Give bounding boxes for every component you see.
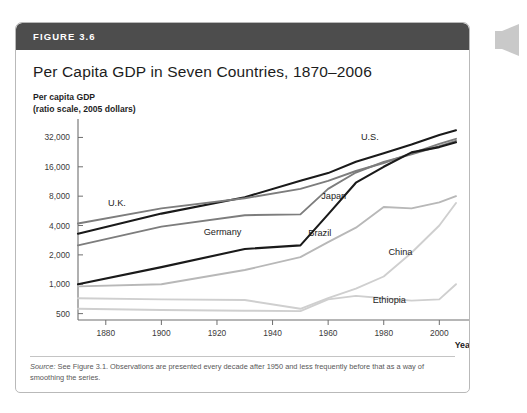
source-divider: [30, 356, 455, 357]
svg-text:2000: 2000: [430, 328, 449, 338]
y-axis-caption: Per capita GDP (ratio scale, 2005 dollar…: [16, 81, 469, 115]
svg-text:4,000: 4,000: [49, 221, 70, 231]
source-note: Source: See Figure 3.1. Observations are…: [30, 362, 454, 383]
y-axis-caption-line1: Per capita GDP: [33, 92, 469, 104]
svg-text:8,000: 8,000: [49, 191, 70, 201]
svg-text:1,000: 1,000: [49, 279, 70, 289]
x-axis-title: Year: [455, 340, 470, 350]
svg-text:China: China: [388, 247, 413, 257]
figure-title: Per Capita GDP in Seven Countries, 1870–…: [16, 50, 469, 81]
svg-text:Brazil: Brazil: [308, 228, 331, 238]
figure-number-label: FIGURE 3.6: [33, 31, 96, 42]
plot-area: 5001,0002,0004,0008,00016,00032,000 1880…: [16, 115, 470, 360]
svg-text:16,000: 16,000: [44, 162, 70, 172]
svg-text:1900: 1900: [152, 328, 171, 338]
svg-text:Germany: Germany: [204, 227, 242, 237]
svg-text:U.K.: U.K.: [108, 198, 126, 208]
x-axis-ticks: 1880190019201940196019802000: [96, 320, 449, 338]
source-body: See Figure 3.1. Observations are present…: [30, 362, 424, 382]
svg-text:U.S.: U.S.: [361, 132, 379, 142]
figure-header-bar: FIGURE 3.6: [16, 23, 469, 50]
svg-text:32,000: 32,000: [44, 132, 70, 142]
svg-text:1940: 1940: [263, 328, 282, 338]
svg-text:2,000: 2,000: [49, 250, 70, 260]
line-chart: 5001,0002,0004,0008,00016,00032,000 1880…: [16, 115, 470, 360]
y-axis-ticks: 5001,0002,0004,0008,00016,00032,000: [44, 132, 83, 318]
source-prefix: Source:: [30, 362, 55, 371]
svg-text:Ethiopia: Ethiopia: [373, 295, 407, 305]
svg-text:500: 500: [56, 309, 70, 319]
svg-text:Japan: Japan: [321, 191, 346, 201]
figure-card: FIGURE 3.6 Per Capita GDP in Seven Count…: [15, 22, 470, 393]
svg-text:1920: 1920: [208, 328, 227, 338]
svg-text:1980: 1980: [374, 328, 393, 338]
svg-text:1960: 1960: [319, 328, 338, 338]
series-lines: [78, 130, 456, 311]
svg-text:1880: 1880: [96, 328, 115, 338]
y-axis-caption-line2: (ratio scale, 2005 dollars): [33, 104, 469, 116]
side-bookmark-arrow: [492, 22, 519, 58]
